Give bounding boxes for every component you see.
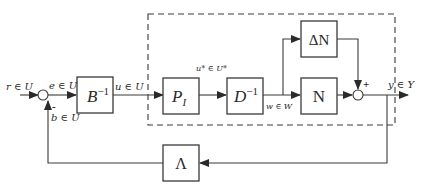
signal-u-label: u ∈ U xyxy=(115,81,144,92)
summing-junction-1 xyxy=(38,90,48,100)
n-label: N xyxy=(313,87,325,106)
signal-w-label: w ∈ W xyxy=(266,102,293,111)
delta-n-output-line xyxy=(337,39,358,89)
minus-sign: - xyxy=(52,100,56,112)
plus-sign: + xyxy=(363,78,369,90)
signal-u-star-label: u* ∈ U* xyxy=(196,64,227,73)
block-diagram: B−1 PI D−1 ΔN N Λ r ∈ U e ∈ U u ∈ U u* ∈… xyxy=(0,0,424,190)
signal-e-label: e ∈ U xyxy=(49,80,78,91)
summing-junction-2 xyxy=(353,90,363,100)
signal-y-label: y ∈ Y xyxy=(387,79,415,90)
lambda-label: Λ xyxy=(175,155,187,172)
delta-n-label: ΔN xyxy=(309,32,330,48)
w-branch-line xyxy=(283,39,300,95)
signal-b-label: b ∈ U xyxy=(51,112,80,123)
signal-r-label: r ∈ U xyxy=(6,81,34,92)
